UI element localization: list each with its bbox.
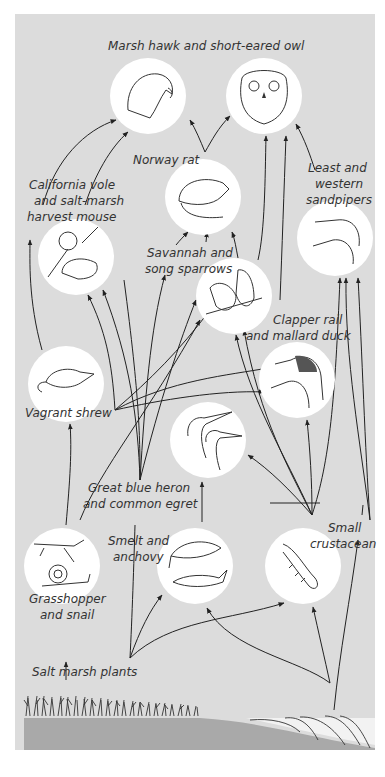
label-heron-1: Great blue heron	[88, 480, 190, 496]
label-sparrow-1: Savannah and	[147, 245, 233, 261]
duck-icon	[259, 342, 335, 418]
hawk-icon	[110, 58, 186, 134]
sandpiper-node	[297, 200, 373, 276]
label-sparrow-2: song sparrows	[145, 261, 232, 277]
label-crustacean-2: crustacean	[310, 536, 376, 552]
label-grasshopper-2: and snail	[40, 607, 94, 623]
heron-icon	[170, 402, 246, 478]
rat-node	[165, 159, 241, 235]
label-norway-rat: Norway rat	[133, 152, 199, 168]
label-vagrant-shrew: Vagrant shrew	[25, 405, 112, 421]
label-fish-1: Smelt and	[108, 533, 169, 549]
label-sandpiper-2: western	[315, 176, 363, 192]
salt-marsh-plants-icon	[24, 696, 198, 716]
label-sandpiper-3: sandpipers	[306, 192, 372, 208]
label-fish-2: anchovy	[113, 549, 164, 565]
label-salt-marsh-plants: Salt marsh plants	[32, 664, 137, 680]
heron-node	[170, 402, 246, 478]
hawk-node	[110, 58, 186, 134]
vole-node	[38, 219, 114, 295]
label-hawk-owl: Marsh hawk and short-eared owl	[108, 38, 304, 54]
label-vole-3: harvest mouse	[27, 209, 116, 225]
label-vole-1: California vole	[29, 177, 115, 193]
label-duck-1: Clapper rail	[273, 312, 342, 328]
label-vole-2: and salt-marsh	[34, 193, 124, 209]
rat-icon	[165, 159, 241, 235]
sandpiper-icon	[297, 200, 373, 276]
duck-node	[259, 342, 335, 418]
label-crustacean-1: Small	[328, 520, 361, 536]
label-sandpiper-1: Least and	[308, 160, 367, 176]
mouse-icon	[38, 219, 114, 295]
owl-icon	[226, 58, 302, 134]
label-grasshopper-1: Grasshopper	[29, 591, 106, 607]
label-duck-2: and mallard duck	[246, 328, 351, 344]
label-heron-2: and common egret	[83, 496, 198, 512]
owl-node	[226, 58, 302, 134]
